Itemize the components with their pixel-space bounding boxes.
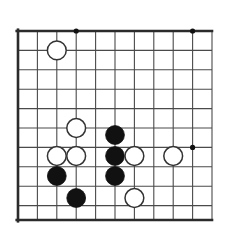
white-stone-left-a[interactable] [47, 147, 66, 166]
black-stone-center-bottom[interactable] [106, 167, 125, 186]
black-stone-bottom[interactable] [67, 189, 86, 208]
white-stone-bottom-right[interactable] [125, 189, 144, 208]
black-stone-center-mid[interactable] [106, 147, 125, 166]
white-stone-right-a[interactable] [125, 147, 144, 166]
go-board-canvas[interactable] [0, 0, 229, 241]
white-stone-right-b[interactable] [164, 147, 183, 166]
star-point-right-center [190, 145, 195, 150]
white-stone-upper-left[interactable] [47, 41, 66, 60]
star-point-top-right [190, 28, 195, 33]
star-point-top-left [74, 28, 79, 33]
white-stone-left-b[interactable] [67, 147, 86, 166]
go-diagram-screenshot [0, 0, 229, 241]
go-board[interactable] [0, 0, 229, 241]
white-stone-center-upper[interactable] [67, 119, 86, 138]
black-stone-center-top[interactable] [106, 126, 125, 145]
black-stone-lower-left[interactable] [47, 167, 66, 186]
